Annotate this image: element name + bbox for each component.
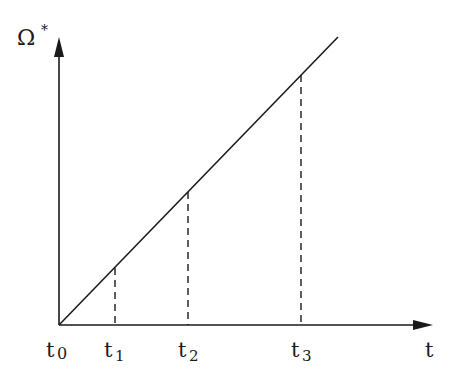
- y-axis-superscript: *: [41, 22, 48, 38]
- svg-text:0: 0: [57, 344, 67, 363]
- svg-text:t: t: [46, 338, 55, 362]
- omega-line: [59, 37, 338, 325]
- svg-text:2: 2: [189, 347, 199, 365]
- x-axis-label: t: [425, 338, 434, 362]
- svg-text:1: 1: [115, 347, 125, 365]
- tick-t2: t 2: [178, 338, 199, 365]
- svg-text:t: t: [104, 338, 113, 362]
- tick-t0: t 0: [46, 338, 67, 363]
- y-axis-label: Ω: [17, 25, 35, 50]
- svg-text:t: t: [291, 338, 300, 362]
- y-axis-arrow-icon: [54, 37, 64, 57]
- svg-text:t: t: [178, 338, 187, 362]
- tick-t1: t 1: [104, 338, 125, 365]
- tick-t3: t 3: [291, 338, 312, 365]
- x-axis-arrow-icon: [413, 320, 433, 330]
- diagram-canvas: Ω * t 0 t 1 t 2 t 3 t: [0, 0, 455, 377]
- svg-text:3: 3: [302, 347, 312, 365]
